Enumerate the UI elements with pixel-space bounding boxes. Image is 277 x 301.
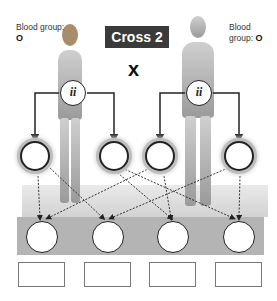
male-gamete-2[interactable]: [224, 141, 254, 171]
offspring-label-1[interactable]: [18, 262, 65, 287]
offspring-circle-4[interactable]: [223, 221, 255, 253]
offspring-label-2[interactable]: [84, 262, 131, 287]
offspring-circle-3[interactable]: [157, 221, 189, 253]
male-gamete-1[interactable]: [145, 141, 175, 171]
male-genotype: ii: [186, 80, 212, 106]
offspring-circle-1[interactable]: [26, 221, 58, 253]
female-gamete-1[interactable]: [20, 141, 50, 171]
female-gamete-2[interactable]: [99, 141, 129, 171]
male-blood-group: Blood group: O: [229, 22, 275, 44]
female-blood-group-value: O: [16, 33, 23, 43]
male-blood-group-value: O: [255, 33, 262, 43]
offspring-label-3[interactable]: [149, 262, 196, 287]
cross-symbol: x: [128, 58, 139, 81]
cross-title: Cross 2: [105, 26, 169, 48]
offspring-circle-2[interactable]: [92, 221, 124, 253]
female-blood-group-label: Blood group:: [16, 22, 64, 32]
male-blood-group-label: Blood group:: [229, 22, 253, 43]
offspring-label-4[interactable]: [215, 262, 262, 287]
female-blood-group: Blood group: O: [16, 22, 66, 44]
female-genotype: ii: [60, 80, 86, 106]
